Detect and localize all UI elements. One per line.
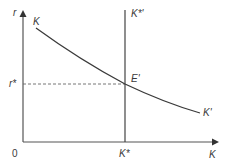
demand-curve	[36, 28, 200, 113]
x-axis-label: K	[209, 149, 217, 160]
equilibrium-point-label: E'	[131, 73, 141, 84]
r-star-label: r*	[9, 78, 17, 89]
origin-label: 0	[12, 148, 18, 159]
curve-end-label: K'	[203, 107, 213, 118]
y-axis-arrow-icon	[20, 10, 27, 17]
k-star-label: K*	[119, 148, 131, 159]
vertical-line-label: K*'	[131, 8, 145, 19]
y-axis-label: r	[13, 7, 17, 18]
curve-start-label: K	[33, 16, 41, 27]
diagram-canvas: r K K*' r* E' K' 0 K* K	[0, 0, 227, 165]
x-axis-arrow-icon	[212, 139, 219, 146]
